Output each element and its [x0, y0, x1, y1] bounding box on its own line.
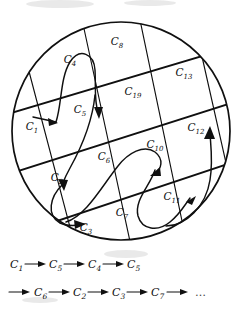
seq1-item-0: C1 — [10, 258, 23, 273]
cell-label-c4: C4 — [64, 53, 77, 68]
traj-arrowhead-c5 — [94, 107, 103, 119]
seq1-arrowhead-0 — [38, 261, 46, 267]
seq1-item-2: C4 — [88, 258, 101, 273]
cell-label-c7: C7 — [116, 206, 129, 221]
seq2-ellipsis: … — [195, 286, 206, 299]
cell-label-c6: C6 — [98, 150, 111, 165]
seq1-arrowhead-2 — [116, 261, 124, 267]
cell-label-c1: C1 — [26, 120, 39, 135]
seq1-item-3: C5 — [127, 258, 140, 273]
seq2-arrowhead-2 — [140, 289, 148, 295]
cell-label-c13: C13 — [176, 66, 194, 81]
seq2-arrowhead-0 — [62, 289, 70, 295]
seq1-arrowhead-1 — [77, 261, 85, 267]
seq2-item-0: C6 — [34, 286, 47, 301]
figure-root: C1 C4 C8 C13 C19 C5 C12 C10 C6 C2 C11 C7… — [0, 0, 242, 309]
cell-label-c19: C19 — [125, 85, 143, 100]
sequence-line-2: C6 C2 C3 C7 … — [9, 286, 206, 301]
seq2-arrowhead-1 — [101, 289, 109, 295]
seq2-item-2: C3 — [112, 286, 125, 301]
seq1-item-1: C5 — [49, 258, 62, 273]
seq2-item-1: C2 — [73, 286, 86, 301]
traj-segment-c2-c3 — [51, 185, 80, 226]
cell-label-c8: C8 — [111, 35, 124, 50]
cell-label-c11: C11 — [164, 190, 181, 205]
partition-line-a2 — [6, 101, 238, 175]
cell-label-c2: C2 — [51, 171, 64, 186]
cell-labels: C1 C4 C8 C13 C19 C5 C12 C10 C6 C2 C11 C7… — [26, 35, 205, 236]
sequence-line-1: C1 C5 C4 C5 — [10, 258, 140, 273]
traj-arrowhead-c10 — [150, 167, 161, 176]
traj-segment-c11-c12 — [166, 134, 212, 226]
trajectory-diagram: C1 C4 C8 C13 C19 C5 C12 C10 C6 C2 C11 C7… — [0, 0, 242, 309]
cell-label-c5: C5 — [74, 103, 87, 118]
cell-label-c10: C10 — [147, 138, 165, 153]
cell-label-c12: C12 — [188, 121, 206, 136]
seq2-arrowhead-3 — [180, 289, 188, 295]
seq2-item-3: C7 — [151, 286, 164, 301]
seq2-arrowhead-lead — [22, 289, 30, 295]
exit-arrowhead-c12 — [204, 126, 215, 139]
